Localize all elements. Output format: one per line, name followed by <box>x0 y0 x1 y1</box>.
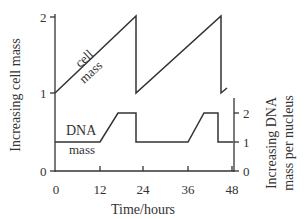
right-tick-1: 1 <box>243 135 250 150</box>
right-tick-2: 2 <box>243 106 250 121</box>
dna-label-line2: mass <box>69 142 95 157</box>
cell-cycle-chart: 2 1 0 2 1 0 0 12 24 36 48 Time/hours Inc… <box>0 0 307 219</box>
x-tick-12: 12 <box>94 182 107 197</box>
left-tick-2: 2 <box>40 10 47 25</box>
x-tick-48: 48 <box>226 182 239 197</box>
x-axis-label: Time/hours <box>111 202 175 217</box>
left-tick-0: 0 <box>40 164 47 179</box>
x-tick-24: 24 <box>137 182 151 197</box>
right-tick-0: 0 <box>243 164 250 179</box>
left-tick-1: 1 <box>40 86 47 101</box>
dna-label-line1: DNA <box>66 123 97 138</box>
right-axis-label-line1: Increasing DNA <box>264 96 279 189</box>
x-tick-36: 36 <box>182 182 196 197</box>
x-tick-0: 0 <box>53 182 60 197</box>
left-axis-label: Increasing cell mass <box>8 38 23 152</box>
right-axis-label-line2: mass per nucleus <box>281 95 296 191</box>
